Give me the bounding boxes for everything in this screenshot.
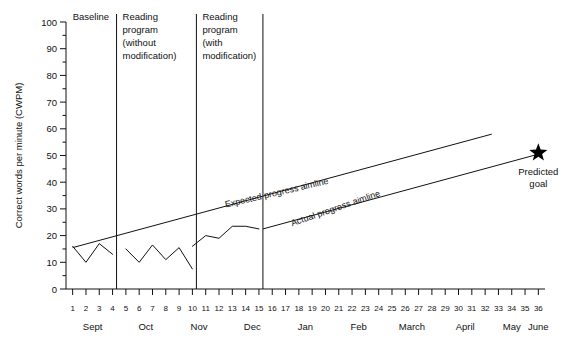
- x-tick-label: 15: [254, 304, 263, 313]
- data-series-2: [126, 245, 193, 269]
- y-tick-label: 80: [46, 70, 57, 81]
- x-tick-label: 16: [268, 304, 277, 313]
- predicted-goal-star-icon: [529, 143, 547, 160]
- phase-label-line: Reading: [123, 11, 158, 22]
- x-tick-label: 19: [308, 304, 317, 313]
- y-tick-label: 30: [46, 203, 57, 214]
- y-axis-title: Correct words per minute (CWPM): [13, 83, 24, 229]
- x-tick-label: 29: [441, 304, 450, 313]
- x-tick-label: 5: [124, 304, 129, 313]
- x-tick-label: 4: [110, 304, 115, 313]
- x-tick-label: 18: [294, 304, 303, 313]
- phase-label-line: program: [202, 24, 237, 35]
- x-tick-label: 33: [494, 304, 503, 313]
- y-tick-label: 70: [46, 97, 57, 108]
- x-tick-label: 31: [467, 304, 476, 313]
- x-tick-label: 9: [177, 304, 182, 313]
- x-tick-label: 7: [150, 304, 155, 313]
- x-tick-label: 23: [361, 304, 370, 313]
- x-tick-label: 24: [374, 304, 383, 313]
- x-tick-label: 26: [401, 304, 410, 313]
- cbm-progress-chart: 0102030405060708090100123456789101112131…: [0, 0, 567, 341]
- phase-label-line: (with: [202, 37, 222, 48]
- x-tick-label: 32: [481, 304, 490, 313]
- y-tick-label: 100: [41, 17, 57, 28]
- x-tick-label: 3: [97, 304, 102, 313]
- phase-label-line: program: [123, 24, 158, 35]
- y-tick-label: 20: [46, 230, 57, 241]
- month-label: Sept: [83, 321, 103, 332]
- x-tick-label: 1: [70, 304, 75, 313]
- x-tick-label: 34: [507, 304, 516, 313]
- y-tick-label: 10: [46, 257, 57, 268]
- x-tick-label: 36: [534, 304, 543, 313]
- y-tick-label: 40: [46, 177, 57, 188]
- y-tick-label: 0: [52, 284, 57, 295]
- month-label: March: [399, 321, 425, 332]
- phase-label-line: Baseline: [73, 11, 109, 22]
- month-label: Jan: [298, 321, 313, 332]
- phase-label-line: modification): [123, 50, 177, 61]
- x-tick-label: 17: [281, 304, 290, 313]
- x-tick-label: 28: [427, 304, 436, 313]
- x-tick-label: 35: [521, 304, 530, 313]
- y-tick-label: 60: [46, 123, 57, 134]
- aimline-label-1: Expected progress aimline: [224, 176, 330, 210]
- month-label: June: [528, 321, 549, 332]
- x-tick-label: 25: [388, 304, 397, 313]
- month-label: May: [503, 321, 521, 332]
- x-tick-label: 14: [241, 304, 250, 313]
- month-label: Feb: [351, 321, 367, 332]
- x-tick-label: 20: [321, 304, 330, 313]
- month-label: Oct: [138, 321, 153, 332]
- month-label: Nov: [191, 321, 208, 332]
- x-tick-label: 27: [414, 304, 423, 313]
- phase-label-line: modification): [202, 50, 256, 61]
- predicted-goal-label-line: Predicted: [518, 166, 558, 177]
- month-label: April: [456, 321, 475, 332]
- aimline-label-2: Actual progress aimline: [290, 188, 382, 228]
- x-tick-label: 10: [188, 304, 197, 313]
- x-tick-label: 2: [84, 304, 89, 313]
- y-tick-label: 50: [46, 150, 57, 161]
- x-tick-label: 8: [164, 304, 169, 313]
- x-tick-label: 22: [348, 304, 357, 313]
- chart-canvas: 0102030405060708090100123456789101112131…: [0, 0, 567, 341]
- month-label: Dec: [244, 321, 261, 332]
- x-tick-label: 6: [137, 304, 142, 313]
- x-tick-label: 13: [228, 304, 237, 313]
- y-tick-label: 90: [46, 43, 57, 54]
- x-tick-label: 30: [454, 304, 463, 313]
- x-tick-label: 21: [334, 304, 343, 313]
- phase-label-line: Reading: [202, 11, 237, 22]
- x-tick-label: 11: [202, 304, 211, 313]
- x-tick-label: 12: [215, 304, 224, 313]
- phase-label-line: (without: [123, 37, 157, 48]
- data-series-3: [192, 226, 259, 246]
- predicted-goal-label-line: goal: [529, 178, 547, 189]
